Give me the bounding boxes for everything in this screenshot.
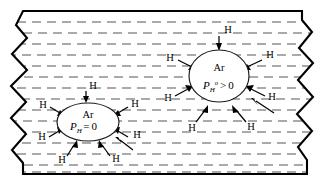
pressure-subscript: H bbox=[76, 127, 83, 135]
h-label: H bbox=[247, 121, 255, 132]
h-label: H bbox=[39, 99, 47, 110]
h-label: H bbox=[133, 129, 141, 140]
h-label: H bbox=[164, 92, 172, 103]
left-bubble-species: Ar bbox=[82, 109, 94, 120]
h-label: H bbox=[89, 80, 97, 91]
h-label: H bbox=[268, 91, 276, 102]
pressure-subscript: H bbox=[209, 86, 216, 94]
h-label: H bbox=[224, 24, 232, 35]
pressure-relation: = bbox=[83, 120, 89, 132]
h-label: H bbox=[266, 49, 274, 60]
right-bubble-species: Ar bbox=[213, 62, 225, 73]
figure-container: Ar PHo>0 H H H H H H H bbox=[0, 0, 325, 185]
pressure-relation: > bbox=[220, 79, 226, 91]
h-label: H bbox=[188, 122, 196, 133]
h-label: H bbox=[131, 98, 139, 109]
h-label: H bbox=[38, 131, 46, 142]
hydrogen-argon-bubble-diagram: Ar PHo>0 H H H H H H H bbox=[0, 0, 325, 185]
pressure-value: 0 bbox=[92, 120, 98, 132]
h-label: H bbox=[166, 52, 174, 63]
pressure-value: 0 bbox=[228, 79, 234, 91]
argon-bubble-right[interactable] bbox=[189, 50, 249, 102]
h-label: H bbox=[58, 154, 66, 165]
h-label: H bbox=[112, 153, 120, 164]
